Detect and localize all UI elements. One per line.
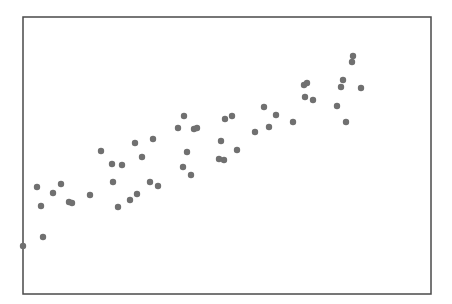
- data-point: [58, 181, 64, 187]
- data-point: [334, 103, 340, 109]
- data-point: [127, 197, 133, 203]
- data-point: [261, 104, 267, 110]
- data-point: [40, 234, 46, 240]
- data-point: [266, 124, 272, 130]
- data-point: [150, 136, 156, 142]
- data-point: [222, 116, 228, 122]
- data-point: [184, 149, 190, 155]
- data-point: [273, 112, 279, 118]
- data-point: [155, 183, 161, 189]
- data-point: [115, 204, 121, 210]
- plot-frame: [23, 17, 431, 294]
- data-point: [132, 140, 138, 146]
- data-point: [109, 161, 115, 167]
- data-point: [38, 203, 44, 209]
- scatter-points: [20, 53, 364, 249]
- data-point: [252, 129, 258, 135]
- data-point: [188, 172, 194, 178]
- data-point: [194, 125, 200, 131]
- scatter-chart: [0, 0, 452, 304]
- data-point: [349, 59, 355, 65]
- data-point: [147, 179, 153, 185]
- data-point: [110, 179, 116, 185]
- data-point: [229, 113, 235, 119]
- data-point: [98, 148, 104, 154]
- data-point: [20, 243, 26, 249]
- data-point: [87, 192, 93, 198]
- data-point: [290, 119, 296, 125]
- data-point: [119, 162, 125, 168]
- data-point: [175, 125, 181, 131]
- data-point: [50, 190, 56, 196]
- data-point: [234, 147, 240, 153]
- data-point: [221, 157, 227, 163]
- data-point: [338, 84, 344, 90]
- data-point: [181, 113, 187, 119]
- data-point: [358, 85, 364, 91]
- data-point: [340, 77, 346, 83]
- data-point: [304, 80, 310, 86]
- data-point: [302, 94, 308, 100]
- data-point: [134, 191, 140, 197]
- data-point: [350, 53, 356, 59]
- data-point: [69, 200, 75, 206]
- data-point: [180, 164, 186, 170]
- data-point: [218, 138, 224, 144]
- data-point: [310, 97, 316, 103]
- data-point: [139, 154, 145, 160]
- data-point: [343, 119, 349, 125]
- data-point: [34, 184, 40, 190]
